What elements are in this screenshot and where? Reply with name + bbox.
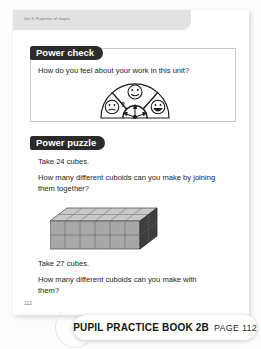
confused-face-icon	[105, 100, 119, 114]
footer-book-label: PUPIL PRACTICE BOOK 2B	[73, 322, 209, 333]
power-check-question: How do you feel about your work in this …	[38, 66, 189, 75]
cuboid-svg	[50, 197, 168, 252]
take-24-text: Take 24 cubes.	[38, 157, 89, 167]
cuboid-illustration	[50, 197, 168, 252]
footer-banner: PUPIL PRACTICE BOOK 2B PAGE 112	[73, 315, 257, 340]
power-check-dial[interactable]: ?	[99, 76, 171, 120]
power-puzzle-heading: Power puzzle	[30, 136, 105, 150]
neutral-smile-face-icon	[128, 85, 142, 99]
big-smile-face-icon	[151, 100, 165, 114]
power-check-heading: Power check	[30, 46, 103, 60]
footer-page-label: PAGE 112	[214, 323, 257, 333]
page-folio: 112	[24, 300, 32, 306]
slide-root: Unit 9: Properties of shapes Power check…	[0, 0, 261, 349]
book-page: Unit 9: Properties of shapes Power check…	[13, 10, 249, 315]
unit-label: Unit 9: Properties of shapes	[24, 16, 70, 21]
footer-banner-inner: PUPIL PRACTICE BOOK 2B PAGE 112	[73, 322, 257, 333]
question-mark-marker: ?	[121, 100, 126, 109]
question-24-text: How many different cuboids can you make …	[38, 173, 218, 194]
dial-svg: ?	[99, 76, 171, 120]
question-27-text: How many different cuboids can you make …	[38, 275, 218, 296]
take-27-text: Take 27 cubes.	[38, 259, 89, 269]
cuboid-front-face	[50, 221, 140, 249]
cuboid-top-face	[50, 208, 157, 221]
